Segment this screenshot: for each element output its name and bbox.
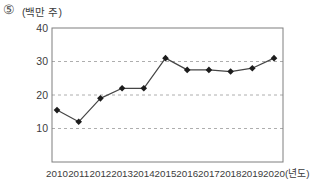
y-tick-label-10: 10 [36,122,48,134]
x-tick-label-2015: 2015 [155,168,177,179]
x-tick-label-2013: 2013 [111,168,133,179]
data-line [57,58,274,122]
x-tick-label-2017: 2017 [198,168,220,179]
x-tick-label-2018: 2018 [220,168,242,179]
data-point-2019 [249,65,256,72]
data-point-2013 [119,85,126,92]
x-tick-label-2020: 2020 [263,168,285,179]
chart-figure: ⑤ (백만 주) 4030201020102011201220132014201… [0,0,313,185]
x-tick-label-2014: 2014 [133,168,155,179]
y-tick-label-20: 20 [36,89,48,101]
y-tick-label-30: 30 [36,55,48,67]
x-tick-label-2011: 2011 [68,168,89,179]
line-chart: 4030201020102011201220132014201520162017… [0,0,313,185]
y-tick-label-40: 40 [36,22,48,34]
data-point-2010 [54,107,61,114]
x-tick-label-2012: 2012 [90,168,112,179]
x-tick-label-2019: 2019 [241,168,263,179]
x-tick-label-2016: 2016 [176,168,198,179]
x-axis-unit-label: (년도) [285,168,310,179]
data-point-2017 [206,67,213,74]
data-point-2018 [227,68,234,75]
data-point-2016 [184,67,191,74]
data-point-2020 [271,55,278,62]
x-tick-label-2010: 2010 [46,168,68,179]
